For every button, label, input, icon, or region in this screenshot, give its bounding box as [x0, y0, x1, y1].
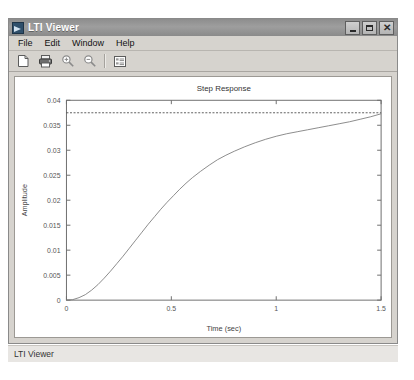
y-tick-label: 0.015 — [43, 222, 60, 229]
x-tick-label: 0.5 — [167, 305, 177, 312]
close-button[interactable] — [379, 21, 394, 35]
title-bar[interactable]: LTI Viewer — [9, 19, 397, 36]
zoom-in-icon — [61, 54, 75, 68]
menu-bar: File Edit Window Help — [9, 36, 397, 51]
y-tick-label: 0.01 — [47, 247, 61, 254]
y-tick-label: 0.005 — [43, 272, 60, 279]
y-tick-label: 0.025 — [43, 172, 60, 179]
x-tick-label: 0 — [65, 305, 69, 312]
matlab-lti-icon — [12, 22, 24, 34]
properties-list-icon — [113, 55, 127, 68]
zoom-in-button[interactable] — [58, 52, 77, 70]
step-response-chart: Step Response00.0050.010.0150.020.0250.0… — [15, 77, 391, 337]
print-icon — [38, 54, 53, 68]
window-title: LTI Viewer — [28, 22, 345, 33]
status-bar: LTI Viewer — [8, 345, 398, 362]
chart-axes-box — [66, 100, 381, 300]
toolbar-separator — [104, 54, 106, 68]
y-axis-label: Amplitude — [20, 184, 29, 216]
window-controls — [345, 21, 396, 35]
x-tick-label: 1.5 — [376, 305, 386, 312]
x-axis-label: Time (sec) — [206, 324, 241, 333]
new-document-button[interactable] — [14, 52, 33, 70]
y-tick-label: 0.04 — [47, 97, 61, 104]
menu-item-window[interactable]: Window — [66, 37, 110, 50]
step-response-curve — [66, 114, 381, 300]
zoom-out-icon — [83, 54, 97, 68]
y-tick-label: 0.02 — [47, 197, 61, 204]
toolbar — [9, 51, 397, 72]
properties-button[interactable] — [110, 52, 129, 70]
menu-item-edit[interactable]: Edit — [39, 37, 67, 50]
maximize-button[interactable] — [362, 21, 377, 35]
menu-item-file[interactable]: File — [12, 37, 39, 50]
new-document-icon — [17, 54, 30, 68]
zoom-out-button[interactable] — [80, 52, 99, 70]
y-tick-label: 0 — [57, 297, 61, 304]
y-tick-label: 0.035 — [43, 122, 60, 129]
y-tick-label: 0.03 — [47, 147, 61, 154]
lti-viewer-window: LTI Viewer File Edit Window Help — [8, 18, 398, 344]
minimize-button[interactable] — [345, 21, 360, 35]
print-button[interactable] — [36, 52, 55, 70]
plot-panel[interactable]: Step Response00.0050.010.0150.020.0250.0… — [14, 76, 392, 338]
x-tick-label: 1 — [274, 305, 278, 312]
status-bar-text: LTI Viewer — [14, 349, 54, 359]
menu-item-help[interactable]: Help — [110, 37, 141, 50]
chart-title: Step Response — [197, 84, 251, 93]
